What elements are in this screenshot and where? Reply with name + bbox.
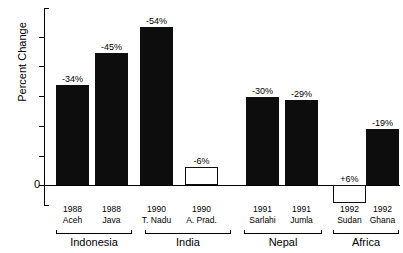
group-tick-nepal-left	[244, 230, 245, 234]
bar-value-label: -29%	[279, 89, 324, 99]
x-axis-category-label: 1990A. Prad.	[176, 204, 227, 226]
bar-chart: Percent Change 0 -34%1988Aceh-45%1988Jav…	[0, 0, 403, 253]
group-tick-africa-left	[333, 230, 334, 234]
x-axis-category-label: 1988Java	[86, 204, 137, 226]
group-label-africa: Africa	[333, 236, 399, 248]
category-place: Ghana	[357, 215, 403, 226]
bar-java	[95, 53, 128, 185]
category-year: 1992	[357, 204, 403, 215]
bar-value-label: -45%	[89, 42, 134, 52]
bar-jumla	[285, 100, 318, 185]
x-axis-category-label: 1990T. Nadu	[131, 204, 182, 226]
category-year: 1991	[276, 204, 327, 215]
group-tick-nepal-right	[321, 230, 322, 234]
group-tick-africa-right	[398, 230, 399, 234]
category-place: A. Prad.	[176, 215, 227, 226]
category-place: T. Nadu	[131, 215, 182, 226]
bar-t-nadu	[140, 27, 173, 185]
bar-value-label: -19%	[360, 118, 403, 128]
group-tick-india-left	[145, 230, 146, 234]
group-rule-africa	[333, 233, 399, 234]
group-rule-india	[145, 233, 231, 234]
group-tick-indonesia-right	[131, 230, 132, 234]
group-tick-indonesia-left	[56, 230, 57, 234]
x-axis-category-label: 1991Jumla	[276, 204, 327, 226]
bar-ghana	[366, 129, 399, 185]
category-year: 1990	[131, 204, 182, 215]
category-year: 1988	[86, 204, 137, 215]
category-place: Java	[86, 215, 137, 226]
group-rule-indonesia	[56, 233, 132, 234]
bar-aceh	[56, 85, 89, 185]
bar-sudan	[333, 185, 366, 203]
group-tick-india-right	[230, 230, 231, 234]
category-place: Jumla	[276, 215, 327, 226]
bar-sarlahi	[246, 97, 279, 185]
group-label-nepal: Nepal	[244, 236, 322, 248]
bar-value-label: -54%	[134, 16, 179, 26]
bar-value-label: -34%	[50, 74, 95, 84]
group-label-indonesia: Indonesia	[56, 236, 132, 248]
category-year: 1990	[176, 204, 227, 215]
plot-area: -34%1988Aceh-45%1988Java-54%1990T. Nadu-…	[0, 0, 403, 253]
x-axis-category-label: 1992Ghana	[357, 204, 403, 226]
group-rule-nepal	[244, 233, 322, 234]
bar-a-prad	[185, 167, 218, 185]
group-label-india: India	[145, 236, 231, 248]
bar-value-label: -6%	[179, 156, 224, 166]
